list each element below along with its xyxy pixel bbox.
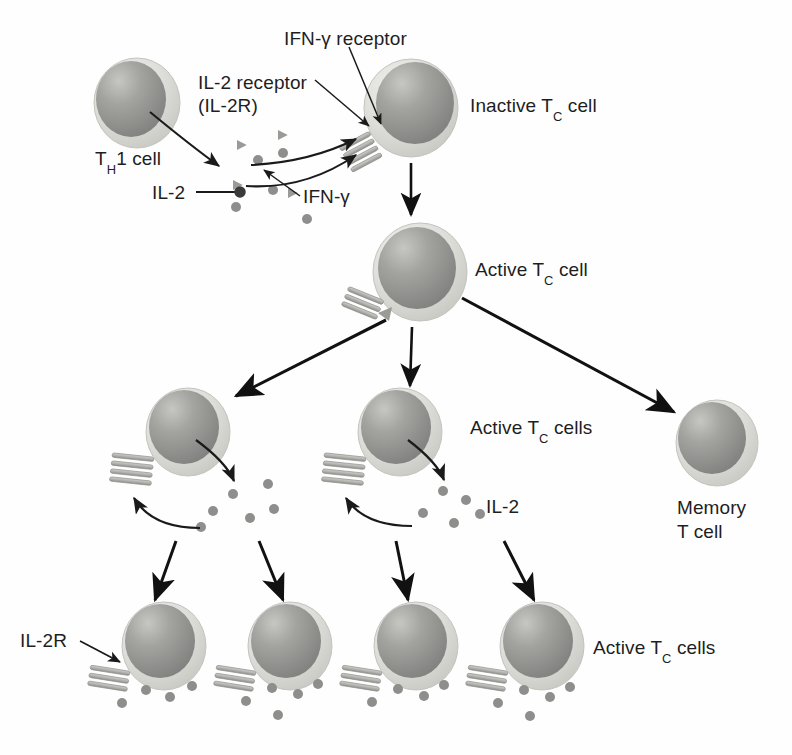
il2-dot bbox=[141, 685, 151, 695]
label-memory-t-cell-line2: T cell bbox=[677, 521, 723, 543]
arrow-right-to-bottom-4 bbox=[504, 541, 534, 600]
il2-dot bbox=[367, 697, 377, 707]
ifn-gamma-triangle bbox=[233, 180, 243, 190]
il2-dot bbox=[228, 489, 238, 499]
receptor-bars-left-mid bbox=[109, 453, 154, 486]
il2-dot bbox=[519, 685, 529, 695]
il2-dot bbox=[208, 506, 218, 516]
receptor-bars-right-mid bbox=[321, 453, 366, 486]
ifn-gamma-triangle bbox=[278, 130, 288, 140]
label-active-tc-cells-bottom: Active TC cells bbox=[593, 637, 715, 659]
cell-group-bottom-2 bbox=[213, 602, 332, 691]
il2-dot bbox=[117, 698, 127, 708]
label-active-tc-cell-main: Active T bbox=[475, 259, 544, 280]
diagram-canvas: IFN-γ receptor IL-2 receptor (IL-2R) Ina… bbox=[0, 0, 792, 755]
il2-dot bbox=[493, 698, 503, 708]
label-th1-cell-main: T bbox=[95, 148, 107, 169]
il2-dot bbox=[273, 710, 283, 720]
label-inactive-tc-cell-main: Inactive T bbox=[470, 95, 553, 116]
il2-dot bbox=[278, 148, 288, 158]
leader-il2r-bottom bbox=[80, 641, 120, 662]
label-inactive-tc-cell-sub: C bbox=[553, 109, 562, 124]
label-il2-mid: IL-2 bbox=[486, 496, 519, 518]
il2-dot bbox=[302, 214, 312, 224]
label-active-tc-cells-mid-sub: C bbox=[539, 431, 548, 446]
arrow-active-to-memory-branch bbox=[462, 298, 674, 412]
il2-dot bbox=[419, 691, 429, 701]
label-inactive-tc-cell-tail: cell bbox=[562, 95, 596, 116]
cell-group-active-tc-left bbox=[109, 388, 230, 485]
cell-group-bottom-1 bbox=[87, 602, 206, 691]
label-active-tc-cell-sub: C bbox=[544, 273, 553, 288]
receptor-bars-bottom-3 bbox=[339, 665, 382, 691]
il2-dot bbox=[293, 689, 303, 699]
label-active-tc-cell: Active TC cell bbox=[475, 259, 588, 281]
il2-dot bbox=[449, 518, 459, 528]
ifn-gamma-triangle bbox=[237, 140, 247, 150]
label-active-tc-cells-bottom-tail: cells bbox=[672, 637, 716, 658]
il2-dot bbox=[475, 509, 485, 519]
receptor-bars-bottom-4 bbox=[465, 665, 508, 691]
arrow-active-to-left-branch bbox=[236, 320, 386, 396]
arrow-cytokines-to-receptor-upper bbox=[251, 139, 356, 165]
label-inactive-tc-cell: Inactive TC cell bbox=[470, 95, 597, 117]
label-active-tc-cells-mid-tail: cells bbox=[549, 417, 593, 438]
cell-group-bottom-3 bbox=[339, 602, 458, 691]
cell-group-active-tc bbox=[341, 223, 467, 321]
arrow-right-to-bottom-3 bbox=[396, 541, 408, 600]
label-th1-cell: TH1 cell bbox=[95, 148, 161, 170]
il2-dot bbox=[245, 513, 255, 523]
label-th1-cell-sub: H bbox=[107, 162, 116, 177]
receptor-bars-bottom-2 bbox=[213, 665, 256, 691]
cell-group-th1 bbox=[94, 58, 180, 148]
label-ifn-gamma-receptor: IFN-γ receptor bbox=[284, 28, 407, 50]
il2-dot bbox=[438, 486, 448, 496]
arrow-uptake-left-cell bbox=[134, 498, 200, 528]
il2-dot bbox=[187, 681, 197, 691]
arrow-active-to-middle-branch bbox=[410, 327, 412, 386]
leader-il2-receptor bbox=[315, 80, 369, 126]
label-il2r: IL-2R bbox=[20, 630, 67, 652]
il2-dot bbox=[165, 692, 175, 702]
label-ifn-gamma-top: IFN-γ bbox=[303, 186, 350, 208]
label-il2-receptor: IL-2 receptor bbox=[198, 72, 307, 94]
il2-dot bbox=[461, 495, 471, 505]
label-il2-receptor-abbrev: (IL-2R) bbox=[198, 95, 258, 117]
il2-dot bbox=[439, 680, 449, 690]
arrow-left-to-bottom-1 bbox=[155, 541, 176, 600]
label-active-tc-cells-mid: Active TC cells bbox=[470, 417, 592, 439]
label-memory-t-cell-line1: Memory bbox=[677, 497, 746, 519]
arrow-uptake-right-cell bbox=[346, 498, 412, 526]
receptor-bars-bottom-1 bbox=[87, 665, 130, 691]
label-il2-top: IL-2 bbox=[152, 182, 185, 204]
il2-dot bbox=[241, 696, 251, 706]
il2-dot bbox=[525, 711, 535, 721]
il2-dot bbox=[393, 684, 403, 694]
il2-dot bbox=[565, 682, 575, 692]
il2-dot bbox=[313, 679, 323, 689]
cell-group-active-tc-right bbox=[321, 388, 442, 485]
cell-group-memory-t bbox=[676, 400, 758, 486]
cell-group-bottom-4 bbox=[465, 602, 584, 691]
label-active-tc-cells-mid-main: Active T bbox=[470, 417, 539, 438]
il2-dot bbox=[418, 508, 428, 518]
label-active-tc-cell-tail: cell bbox=[554, 259, 588, 280]
label-active-tc-cells-bottom-sub: C bbox=[662, 651, 671, 666]
il2-dot bbox=[545, 692, 555, 702]
label-th1-cell-tail: 1 cell bbox=[116, 148, 161, 169]
il2-dot bbox=[269, 504, 279, 514]
il2-dot bbox=[231, 202, 241, 212]
arrow-left-to-bottom-2 bbox=[259, 541, 283, 600]
il2-dot bbox=[263, 479, 273, 489]
label-active-tc-cells-bottom-main: Active T bbox=[593, 637, 662, 658]
il2-dot bbox=[267, 683, 277, 693]
